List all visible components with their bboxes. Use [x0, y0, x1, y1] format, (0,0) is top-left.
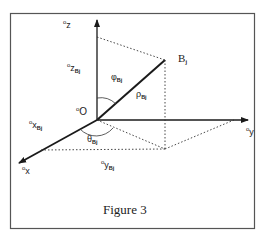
figure-caption: Figure 3 [103, 202, 147, 218]
projection-foot-to-y [165, 120, 234, 149]
phi-arc [97, 98, 116, 104]
figure-frame [11, 14, 255, 229]
origin-label: oO [76, 106, 87, 117]
x-axis-label: ox [22, 165, 30, 176]
point-b-label: Bj [178, 53, 187, 66]
projection-z-to-b [97, 37, 165, 60]
projection-origin-to-foot [97, 120, 165, 149]
rho-label: ρBj [136, 90, 147, 101]
phi-label: φBj [111, 73, 122, 84]
y-axis-label: oy [246, 126, 254, 137]
rho-vector [97, 60, 165, 120]
theta-label: θBj [87, 135, 98, 146]
xbj-label: oxBj [29, 119, 42, 132]
zbj-label: ozBj [67, 62, 80, 75]
z-axis-label: oz [63, 19, 71, 30]
projection-x-to-foot [41, 149, 165, 150]
ybj-label: oyBj [101, 159, 114, 172]
